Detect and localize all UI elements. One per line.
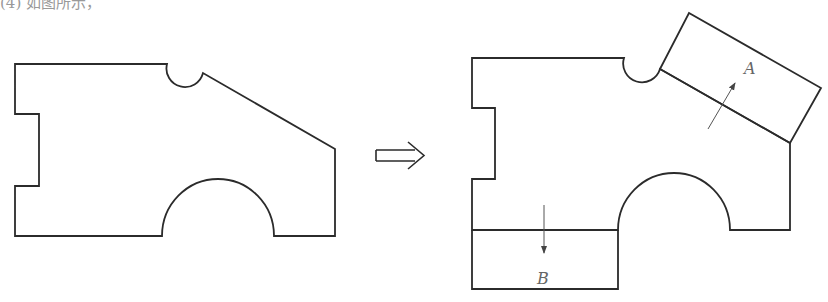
transformed-shape-outline xyxy=(472,58,790,230)
original-shape-outline xyxy=(15,64,335,236)
transformed-shape: A B xyxy=(472,13,821,289)
transform-arrow-icon xyxy=(376,142,424,169)
piece-a-move-arrow-icon xyxy=(708,83,735,129)
label-b: B xyxy=(536,269,549,288)
piece-a xyxy=(660,13,821,143)
label-a: A xyxy=(742,59,756,78)
original-shape xyxy=(15,64,335,236)
diagram-canvas: A B xyxy=(0,0,828,302)
